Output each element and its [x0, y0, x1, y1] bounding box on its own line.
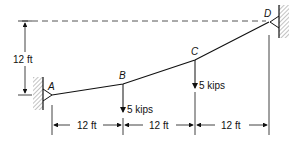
- right-wall-support: [270, 5, 289, 38]
- cable-diagram: A B C D 5 kips 5 kips 12 ft 12 ft 12 ft …: [0, 0, 299, 145]
- point-label-b: B: [119, 70, 126, 81]
- svg-text:12 ft: 12 ft: [221, 120, 241, 131]
- svg-text:12 ft: 12 ft: [13, 54, 33, 65]
- horizontal-dimension: 12 ft 12 ft 12 ft: [52, 35, 269, 135]
- cable: [52, 22, 269, 95]
- svg-text:5 kips: 5 kips: [127, 104, 153, 115]
- load-at-b: 5 kips: [123, 84, 153, 115]
- svg-text:12 ft: 12 ft: [149, 120, 169, 131]
- svg-text:12 ft: 12 ft: [77, 120, 97, 131]
- point-label-c: C: [191, 46, 199, 57]
- svg-text:5 kips: 5 kips: [199, 80, 225, 91]
- vertical-dimension: 12 ft: [13, 21, 33, 95]
- point-label-d: D: [264, 8, 271, 19]
- point-label-a: A: [47, 81, 55, 92]
- load-at-c: 5 kips: [195, 60, 225, 91]
